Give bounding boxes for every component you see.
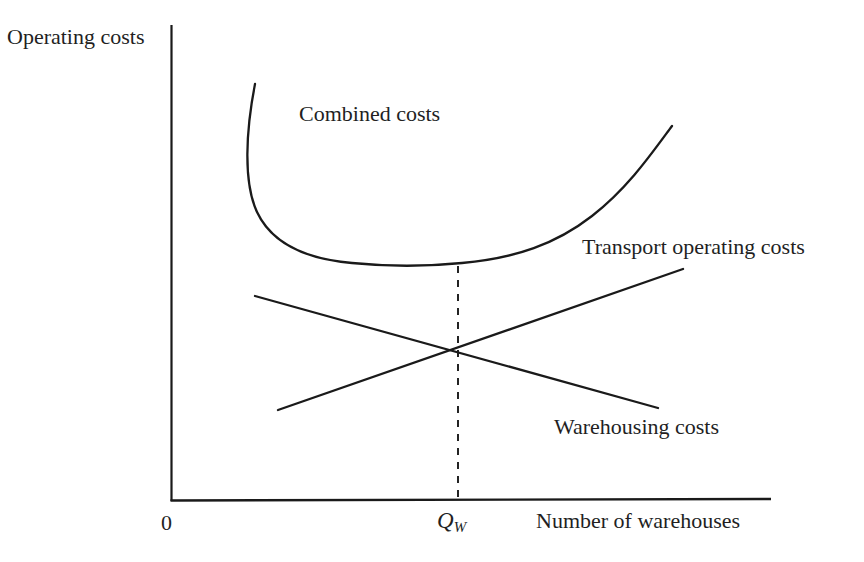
x-axis-line — [171, 499, 772, 501]
transport-operating-costs-label: Transport operating costs — [582, 236, 805, 258]
combined-costs-label: Combined costs — [299, 103, 440, 125]
optimum-quantity-subscript: W — [454, 519, 467, 535]
origin-label: 0 — [161, 512, 172, 534]
x-axis-label: Number of warehouses — [536, 510, 740, 532]
warehousing-costs-label: Warehousing costs — [554, 416, 719, 438]
chart-background — [0, 0, 864, 562]
optimum-quantity-symbol: Q — [437, 508, 454, 533]
y-axis-label: Operating costs — [7, 26, 144, 48]
operating-costs-vs-number-of-warehouses-chart — [0, 0, 864, 562]
optimum-quantity-label: QW — [437, 509, 466, 535]
